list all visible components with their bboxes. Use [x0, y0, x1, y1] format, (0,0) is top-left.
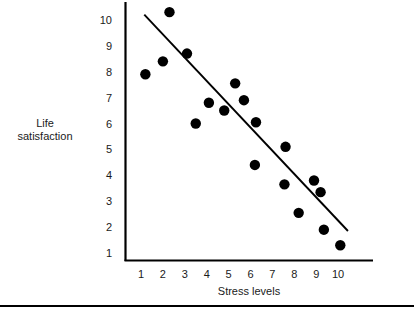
x-tick-label: 6	[247, 269, 253, 280]
footer-divider	[0, 305, 414, 307]
y-tick-label: 4	[86, 170, 112, 181]
y-tick-label: 1	[86, 248, 112, 259]
x-tick-label: 3	[182, 269, 188, 280]
data-point	[251, 117, 261, 127]
y-tick-label: 3	[86, 196, 112, 207]
y-axis-title-line-2: satisfaction	[8, 130, 82, 143]
data-point	[293, 208, 303, 218]
data-point	[182, 48, 192, 58]
y-axis-title: Life satisfaction	[8, 117, 82, 143]
scatter-plot-figure: 12345678910 12345678910 Life satisfactio…	[0, 0, 414, 317]
data-point	[315, 187, 325, 197]
x-tick-label: 7	[269, 269, 275, 280]
data-point	[140, 69, 150, 79]
data-point	[164, 7, 174, 17]
x-tick-label: 2	[160, 269, 166, 280]
x-tick-label: 8	[291, 269, 297, 280]
data-point	[239, 95, 249, 105]
axes	[125, 2, 374, 261]
x-tick-label: 10	[332, 269, 344, 280]
data-point	[204, 98, 214, 108]
data-point	[219, 105, 229, 115]
y-tick-label: 10	[86, 14, 112, 25]
data-point	[279, 179, 289, 189]
y-axis-title-line-1: Life	[8, 117, 82, 130]
trend-line	[144, 15, 348, 231]
y-tick-label: 8	[86, 66, 112, 77]
y-tick-label: 9	[86, 40, 112, 51]
data-point	[319, 224, 329, 234]
data-point	[191, 118, 201, 128]
data-point	[280, 142, 290, 152]
trendline	[144, 15, 348, 231]
x-axis-title: Stress levels	[125, 285, 373, 297]
data-point	[335, 240, 345, 250]
data-point	[230, 78, 240, 88]
y-tick-label: 7	[86, 92, 112, 103]
x-tick-label: 1	[138, 269, 144, 280]
y-tick-label: 6	[86, 118, 112, 129]
data-point	[250, 160, 260, 170]
data-point	[158, 56, 168, 66]
y-tick-label: 2	[86, 222, 112, 233]
x-tick-label: 4	[204, 269, 210, 280]
data-point	[309, 175, 319, 185]
x-tick-label: 9	[313, 269, 319, 280]
y-tick-label: 5	[86, 144, 112, 155]
x-tick-label: 5	[226, 269, 232, 280]
